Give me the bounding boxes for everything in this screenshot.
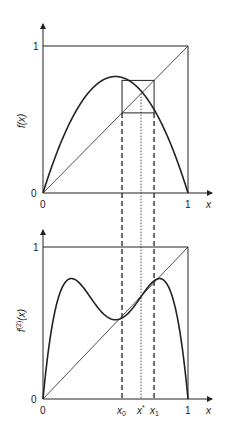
top-parabola-curve: [43, 77, 188, 194]
bottom-plot: 1 0 0 1 x x0 x* x1 f(2)(x): [15, 230, 212, 417]
bottom-xlabel: x: [205, 405, 212, 416]
bottom-tick-x1: 1: [185, 405, 191, 416]
top-plot: 1 0 0 1 x f(x): [16, 24, 212, 210]
connecting-vertical-lines: [122, 94, 154, 399]
bottom-tick-y0: 0: [31, 394, 37, 405]
top-tick-y1: 1: [33, 41, 39, 52]
bottom-second-iterate-curve: [43, 279, 188, 399]
bottom-diagonal: [43, 247, 188, 399]
top-ylabel: f(x): [16, 114, 27, 128]
top-diagonal: [43, 46, 188, 193]
bottom-tick-y1: 1: [33, 242, 39, 253]
bottom-ylabel: f(2)(x): [15, 309, 27, 332]
logistic-map-figure: 1 0 0 1 x f(x) 1 0 0 1 x x0 x* x1 f(2)(x…: [0, 0, 227, 431]
bottom-tick-x1-fixed-point: x1: [149, 405, 159, 417]
top-tick-x1: 1: [185, 199, 191, 210]
top-tick-x0: 0: [40, 199, 46, 210]
bottom-tick-xstar: x*: [136, 404, 145, 416]
bottom-tick-x0: 0: [40, 405, 46, 416]
top-tick-y0: 0: [31, 188, 37, 199]
bottom-tick-x0-fixed-point: x0: [116, 405, 126, 417]
top-xlabel: x: [205, 199, 212, 210]
